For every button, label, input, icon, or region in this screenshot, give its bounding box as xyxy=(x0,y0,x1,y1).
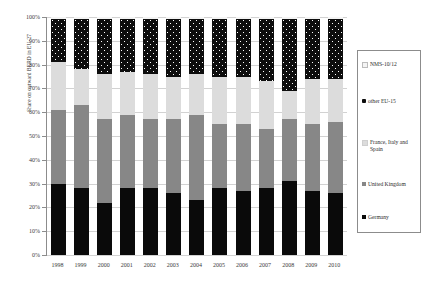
y-axis-tick-label: 90% xyxy=(29,38,40,44)
y-axis-tick-label: 20% xyxy=(29,204,40,210)
bars-group xyxy=(47,17,347,255)
y-axis-tick-label: 80% xyxy=(29,62,40,68)
bar-column[interactable] xyxy=(143,17,158,255)
bar-segment[interactable] xyxy=(282,91,297,120)
bar-column[interactable] xyxy=(236,17,251,255)
bar-segment[interactable] xyxy=(51,184,66,255)
bar-segment[interactable] xyxy=(74,105,89,188)
x-axis-tick-label: 1998 xyxy=(50,255,65,268)
bar-segment[interactable] xyxy=(305,124,320,191)
legend-label: United Kingdom xyxy=(368,181,406,188)
y-axis-tick-label: 30% xyxy=(29,181,40,187)
legend-item[interactable]: NMS-10/12 xyxy=(362,61,420,68)
x-axis-tick-label: 2010 xyxy=(327,255,342,268)
bar-column[interactable] xyxy=(97,17,112,255)
bar-column[interactable] xyxy=(120,17,135,255)
bar-segment[interactable] xyxy=(328,19,343,79)
bar-segment[interactable] xyxy=(97,203,112,255)
bar-segment[interactable] xyxy=(236,77,251,125)
bar-segment[interactable] xyxy=(74,69,89,105)
x-axis-tick-label: 1999 xyxy=(73,255,88,268)
y-axis-tick-label: 70% xyxy=(29,85,40,91)
bar-segment[interactable] xyxy=(259,129,274,189)
y-axis-tick-label: 10% xyxy=(29,228,40,234)
legend-label: other EU-15 xyxy=(368,98,396,105)
bar-segment[interactable] xyxy=(51,110,66,184)
bar-segment[interactable] xyxy=(120,188,135,255)
bar-segment[interactable] xyxy=(328,79,343,122)
bar-segment[interactable] xyxy=(189,19,204,74)
bar-segment[interactable] xyxy=(328,193,343,255)
bar-segment[interactable] xyxy=(97,19,112,74)
x-axis-tick-label: 2007 xyxy=(258,255,273,268)
bar-column[interactable] xyxy=(305,17,320,255)
bar-segment[interactable] xyxy=(305,79,320,124)
x-axis-tick-label: 2003 xyxy=(165,255,180,268)
bar-segment[interactable] xyxy=(143,74,158,119)
bar-segment[interactable] xyxy=(51,62,66,110)
bar-segment[interactable] xyxy=(97,74,112,119)
x-axis-tick-label: 2005 xyxy=(211,255,226,268)
bar-segment[interactable] xyxy=(166,119,181,193)
bar-segment[interactable] xyxy=(236,19,251,76)
x-axis-tick-label: 2001 xyxy=(119,255,134,268)
legend-item[interactable]: other EU-15 xyxy=(362,98,420,105)
bar-segment[interactable] xyxy=(120,19,135,71)
bar-segment[interactable] xyxy=(282,19,297,90)
bar-segment[interactable] xyxy=(189,115,204,201)
bar-column[interactable] xyxy=(282,17,297,255)
y-axis-tick-label: 0% xyxy=(32,252,40,258)
bar-segment[interactable] xyxy=(74,188,89,255)
bar-column[interactable] xyxy=(51,17,66,255)
legend-item[interactable]: Germany xyxy=(362,214,420,221)
bar-segment[interactable] xyxy=(212,77,227,125)
chart-root: Share on outward BERD in EU-27 0%10%20%3… xyxy=(0,0,429,291)
bar-segment[interactable] xyxy=(236,191,251,255)
y-axis-tick-label: 60% xyxy=(29,109,40,115)
bar-segment[interactable] xyxy=(120,115,135,189)
bar-segment[interactable] xyxy=(212,188,227,255)
bar-segment[interactable] xyxy=(166,77,181,120)
bar-segment[interactable] xyxy=(189,74,204,114)
bar-column[interactable] xyxy=(259,17,274,255)
bar-segment[interactable] xyxy=(143,19,158,74)
legend-swatch-icon xyxy=(362,215,366,219)
bar-segment[interactable] xyxy=(305,19,320,79)
bar-column[interactable] xyxy=(166,17,181,255)
legend-swatch-icon xyxy=(362,182,366,186)
bar-segment[interactable] xyxy=(212,19,227,76)
bar-segment[interactable] xyxy=(328,122,343,193)
legend-item[interactable]: United Kingdom xyxy=(362,181,420,188)
bar-column[interactable] xyxy=(74,17,89,255)
bar-segment[interactable] xyxy=(282,181,297,255)
bar-segment[interactable] xyxy=(282,119,297,181)
bar-column[interactable] xyxy=(328,17,343,255)
bar-segment[interactable] xyxy=(143,119,158,188)
bar-segment[interactable] xyxy=(236,124,251,191)
x-axis-labels: 1998199920002001200220032004200520062007… xyxy=(46,255,346,268)
bar-segment[interactable] xyxy=(97,119,112,202)
bar-segment[interactable] xyxy=(51,19,66,62)
bar-column[interactable] xyxy=(189,17,204,255)
bar-segment[interactable] xyxy=(120,72,135,115)
bar-segment[interactable] xyxy=(166,19,181,76)
legend-swatch-icon xyxy=(362,62,368,68)
bar-segment[interactable] xyxy=(259,81,274,129)
legend-label: Germany xyxy=(368,214,389,221)
bar-segment[interactable] xyxy=(143,188,158,255)
bar-segment[interactable] xyxy=(259,19,274,81)
bar-column[interactable] xyxy=(212,17,227,255)
legend-swatch-icon xyxy=(362,140,368,146)
bar-segment[interactable] xyxy=(166,193,181,255)
legend-swatch-icon xyxy=(362,99,366,103)
chart-legend: NMS-10/12other EU-15France, Italy and Sp… xyxy=(357,50,421,233)
bar-segment[interactable] xyxy=(212,124,227,188)
bar-segment[interactable] xyxy=(305,191,320,255)
legend-item[interactable]: France, Italy and Spain xyxy=(362,139,420,153)
bar-segment[interactable] xyxy=(74,19,89,69)
y-axis-tick-label: 40% xyxy=(29,157,40,163)
x-axis-tick-label: 2006 xyxy=(235,255,250,268)
bar-segment[interactable] xyxy=(259,188,274,255)
x-axis-tick-label: 2009 xyxy=(304,255,319,268)
bar-segment[interactable] xyxy=(189,200,204,255)
